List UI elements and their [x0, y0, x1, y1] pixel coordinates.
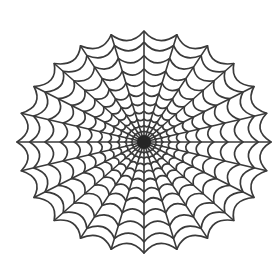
spider-web-image	[0, 0, 280, 259]
web-hub	[137, 135, 151, 149]
spider-web-graphic	[0, 0, 280, 259]
